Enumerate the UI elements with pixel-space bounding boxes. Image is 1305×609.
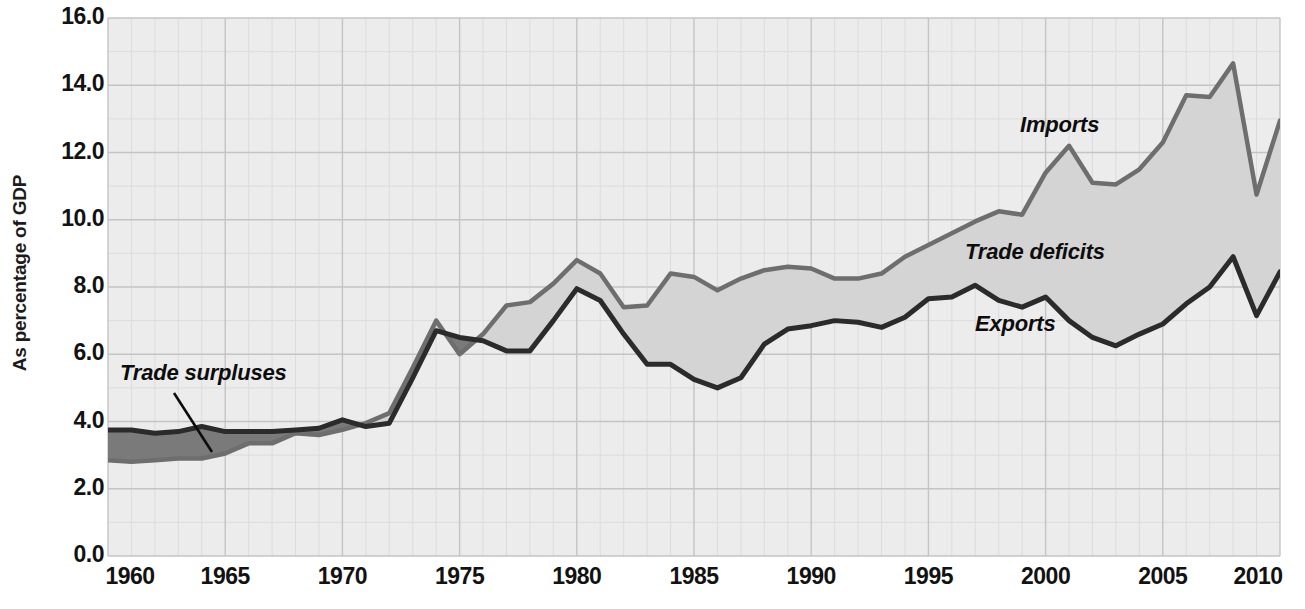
x-axis-tick: 1990: [787, 563, 836, 590]
exports-label: Exports: [975, 311, 1056, 337]
x-axis-tick: 1975: [435, 563, 484, 590]
y-axis-tick: 16.0: [8, 3, 104, 30]
y-axis-tick: 10.0: [8, 205, 104, 232]
trade-surpluses-label: Trade surpluses: [120, 360, 287, 386]
x-axis-tick: 2010: [1233, 563, 1282, 590]
x-axis-tick: 2000: [1021, 563, 1070, 590]
x-axis-tick: 1985: [669, 563, 718, 590]
imports-label: Imports: [1020, 112, 1099, 138]
x-axis-tick: 1960: [105, 563, 154, 590]
trade-deficits-label: Trade deficits: [965, 239, 1105, 265]
y-axis-tick: 6.0: [8, 339, 104, 366]
x-axis-tick: 1970: [318, 563, 367, 590]
trade-balance-chart: As percentage of GDP 0.02.04.06.08.010.0…: [0, 0, 1305, 609]
plot-area: [0, 0, 1305, 609]
y-axis-tick: 8.0: [8, 272, 104, 299]
y-axis-tick-group: 0.02.04.06.08.010.012.014.016.0: [0, 0, 104, 609]
y-axis-tick: 2.0: [8, 474, 104, 501]
y-axis-tick: 12.0: [8, 138, 104, 165]
y-axis-tick: 4.0: [8, 407, 104, 434]
y-axis-tick: 14.0: [8, 70, 104, 97]
x-axis-tick: 2005: [1138, 563, 1187, 590]
x-axis-tick: 1980: [552, 563, 601, 590]
x-axis-tick: 1965: [201, 563, 250, 590]
x-axis-tick: 1995: [904, 563, 953, 590]
y-axis-tick: 0.0: [8, 541, 104, 568]
